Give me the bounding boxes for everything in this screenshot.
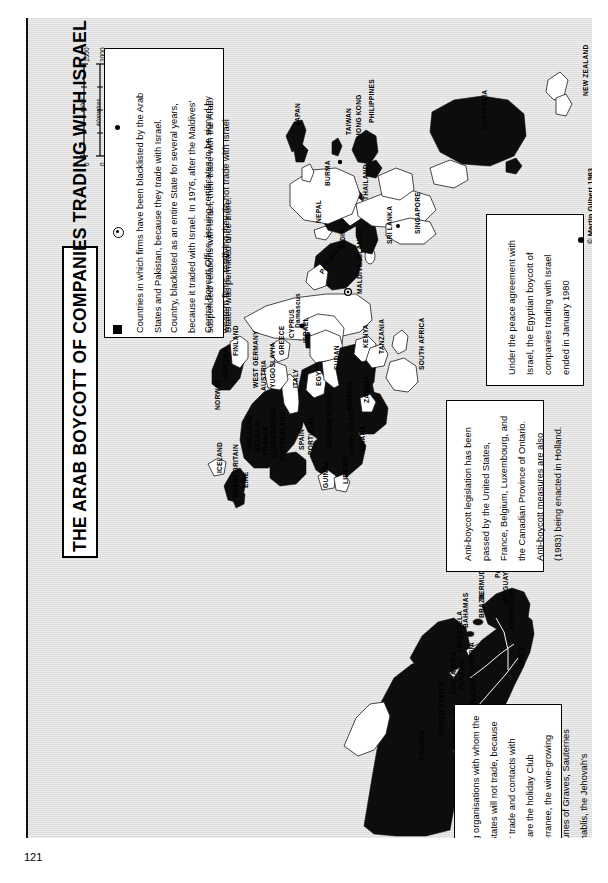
map-label: ICELAND: [216, 442, 223, 473]
map-label: ISRAEL: [302, 317, 309, 343]
map-label: IVORY COAST: [348, 407, 355, 455]
map-label: HONG KONG: [355, 94, 362, 138]
map-label: CHAD: [326, 393, 333, 413]
map-label: LIBERIA: [342, 456, 349, 484]
legend-item-0-text: Countries in which firms have been black…: [129, 75, 165, 333]
map-label: SWEDEN: [222, 348, 229, 378]
map-label: UNITED STATES: [438, 681, 445, 736]
map-label: GREAT BRITAIN: [232, 444, 239, 498]
map-label: SRI LANKA: [386, 206, 393, 244]
note-organisations-text-wrap: Among organisations with whom the Arab S…: [465, 713, 592, 838]
map-label: VENEZUELA: [456, 611, 463, 653]
map-label: KENYA: [362, 324, 369, 348]
map-label: BELGIUM: [254, 420, 261, 452]
page-root: .land { fill:#ffffff; stroke:#1a1a1a; st…: [0, 0, 608, 883]
map-label: JAPAN: [294, 103, 301, 126]
map-label: CANADA: [418, 730, 425, 760]
map-label: SINGAPORE: [414, 192, 421, 234]
map-label: WEST GERMANY: [252, 330, 259, 388]
map-plate: .land { fill:#ffffff; stroke:#1a1a1a; st…: [26, 18, 592, 838]
map-title: THE ARAB BOYCOTT OF COMPANIES TRADING WI…: [70, 20, 91, 552]
map-label: ARGENTINE: [508, 589, 515, 630]
map-label: NEPAL: [315, 200, 322, 223]
note-peace-agreement: Under the peace agreement with Israel, t…: [486, 214, 584, 386]
plate-edge-rule: [26, 18, 28, 838]
map-label: GUINEA: [322, 461, 329, 488]
map-label: PORTUGAL: [307, 416, 314, 455]
map-label: TAIWAN: [345, 108, 352, 135]
map-label: MALDIVE ISLANDS: [356, 230, 363, 294]
map-label: NIGERIA: [346, 381, 353, 410]
map-label: PHILIPPINES: [368, 79, 375, 123]
map-label: ZAMBIA: [363, 376, 370, 403]
map-label: FRANCE: [262, 426, 269, 455]
map-label: YUGOSLAVIA: [269, 342, 276, 388]
map-label: GHANA: [359, 426, 366, 451]
map-label: AUSTRALIA: [481, 90, 488, 130]
map-label: Damascus: [294, 293, 301, 328]
region-oceania: [430, 72, 572, 174]
map-label: BURMA: [324, 160, 331, 186]
map-label: SUDAN: [333, 345, 340, 370]
map-label: TANZANIA: [378, 319, 385, 354]
legend-symbol-dot: [113, 123, 122, 132]
map-label: BRAZIL: [478, 592, 485, 618]
map-label: CHILE: [518, 647, 525, 668]
map-label: CYPRUS: [288, 309, 295, 338]
map-label: COSTA RICA: [450, 651, 457, 694]
legend-symbol-circle-dot: [113, 227, 124, 238]
map-label: EIRE: [242, 472, 249, 488]
map-label: BAHAMAS: [462, 593, 469, 628]
credit-bullet-icon: [578, 237, 584, 243]
map-label: EGYPT: [315, 362, 322, 386]
map-label: DAHOMEY: [326, 413, 333, 448]
map-label: SPAIN: [298, 429, 305, 450]
note-anti-boycott: Anti-boycott legislation has been passed…: [446, 400, 544, 572]
map-label: SWITZERLAND: [279, 411, 286, 462]
legend-box: Countries in which firms have been black…: [104, 48, 224, 338]
map-label: GREECE: [278, 326, 285, 355]
credit-line: © Martin Gilbert 1983: [586, 168, 592, 244]
note-anti-text-wrap: Anti-boycott legislation has been passed…: [457, 411, 565, 561]
map-label: NORWAY: [214, 380, 221, 410]
map-label: PANAMA: [458, 660, 465, 690]
legend-symbol-filled-square: [113, 325, 122, 334]
map-label: ITALY: [292, 369, 299, 388]
map-label: SOUTH AFRICA: [418, 317, 425, 370]
map-title-box: THE ARAB BOYCOTT OF COMPANIES TRADING WI…: [62, 246, 98, 558]
map-label: NEW ZEALAND: [582, 45, 589, 96]
map-label: LUXEMBOURG: [270, 408, 277, 458]
legend-item-2-text: Central Boycott Office, issuing certific…: [197, 75, 233, 333]
map-label: HOLLAND: [246, 415, 253, 449]
page-number: 121: [24, 851, 42, 863]
map-label: THAILAND: [362, 164, 369, 200]
note-peace-text-wrap: Under the peace agreement with Israel, t…: [501, 229, 573, 375]
scale-kilometres-label: kilometres: [95, 99, 101, 126]
map-label: COLOMBIA: [468, 642, 475, 680]
map-label: AUSTRIA: [260, 360, 267, 391]
note-organisations: Among organisations with whom the Arab S…: [454, 704, 562, 838]
